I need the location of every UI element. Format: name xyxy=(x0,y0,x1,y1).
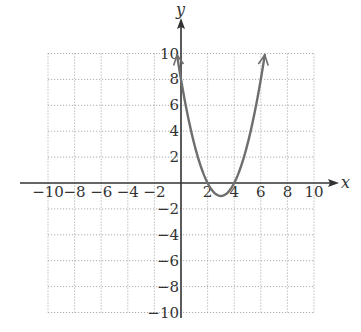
x-tick-label: −6 xyxy=(90,183,112,201)
parabola-chart: x y −10−8−6−4−2246810−10−8−6−4−2246810 xyxy=(0,0,361,332)
y-tick-label: −4 xyxy=(157,226,179,244)
x-tick-label: −2 xyxy=(143,183,165,201)
y-tick-label: 4 xyxy=(169,122,179,140)
y-axis-label: y xyxy=(175,0,186,19)
x-tick-label: −8 xyxy=(64,183,86,201)
y-tick-label: −2 xyxy=(157,200,179,218)
x-axis-label: x xyxy=(341,173,350,192)
parabola-curve xyxy=(174,55,269,196)
y-tick-label: −6 xyxy=(157,252,179,270)
x-tick-label: 6 xyxy=(256,183,266,201)
y-tick-label: −8 xyxy=(157,278,179,296)
y-tick-label: 2 xyxy=(169,148,179,166)
y-tick-label: 6 xyxy=(169,96,179,114)
axes: x y xyxy=(20,0,350,318)
x-tick-label: 8 xyxy=(283,183,293,201)
y-tick-label: 8 xyxy=(169,70,179,88)
x-tick-label: 4 xyxy=(229,183,239,201)
parabola-path xyxy=(177,55,265,196)
x-tick-label: 2 xyxy=(203,183,213,201)
y-tick-label: −10 xyxy=(147,304,179,322)
x-tick-label: −4 xyxy=(117,183,139,201)
x-tick-label: −10 xyxy=(32,183,64,201)
x-tick-label: 10 xyxy=(304,183,323,201)
